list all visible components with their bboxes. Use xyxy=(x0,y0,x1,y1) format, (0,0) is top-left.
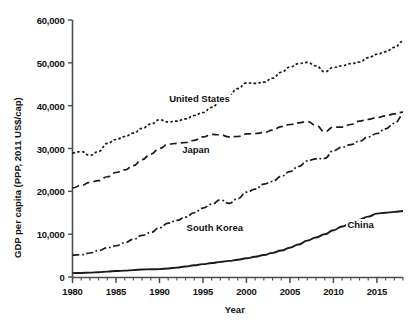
y-tick-label-20000: 20,000 xyxy=(37,186,65,197)
y-tick-label-10000: 10,000 xyxy=(37,229,65,240)
y-axis-title: GDP per capita (PPP, 2011 US$/cap) xyxy=(12,97,23,258)
x-tick-label-1995: 1995 xyxy=(193,286,213,297)
x-tick-label-2010: 2010 xyxy=(323,286,343,297)
series-label-south-korea: South Korea xyxy=(186,222,244,233)
y-tick-label-50000: 50,000 xyxy=(37,57,65,68)
y-tick-label-40000: 40,000 xyxy=(37,100,65,111)
y-tick-label-30000: 30,000 xyxy=(37,143,65,154)
series-line-united-states xyxy=(73,41,404,155)
y-tick-label-0: 0 xyxy=(59,272,64,283)
series-line-japan xyxy=(73,112,404,188)
x-tick-label-1985: 1985 xyxy=(106,286,126,297)
x-tick-label-1980: 1980 xyxy=(62,286,82,297)
x-tick-label-2015: 2015 xyxy=(367,286,387,297)
series-paths xyxy=(73,41,404,273)
x-axis-title: Year xyxy=(225,304,245,315)
axis-lines xyxy=(73,20,404,278)
x-tick-label-2005: 2005 xyxy=(280,286,300,297)
gdp-per-capita-line-chart: 010,00020,00030,00040,00050,00060,000 19… xyxy=(0,0,416,323)
series-label-china: China xyxy=(346,219,374,230)
x-tick-label-2000: 2000 xyxy=(236,286,256,297)
y-tick-label-60000: 60,000 xyxy=(37,15,65,26)
x-tick-label-1990: 1990 xyxy=(149,286,169,297)
series-label-japan: Japan xyxy=(181,144,210,155)
series-label-united-states: United States xyxy=(168,93,231,104)
